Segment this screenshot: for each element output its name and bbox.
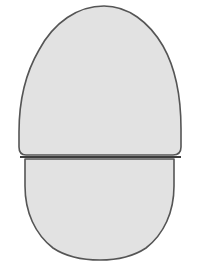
egg-figure — [0, 0, 197, 280]
figure-canvas — [0, 0, 197, 280]
